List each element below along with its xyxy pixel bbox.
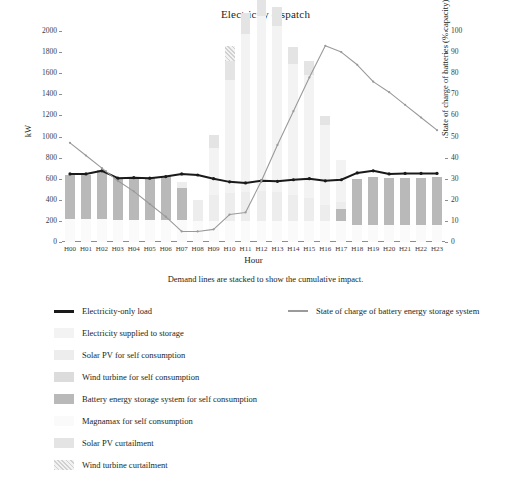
- legend-item[interactable]: Magnamax for self consumption: [54, 410, 193, 432]
- chart-subtitle: Demand lines are stacked to show the cum…: [0, 274, 531, 284]
- y-tick-mark-right: [445, 52, 448, 53]
- series-point: [388, 172, 391, 175]
- series-point: [356, 64, 358, 66]
- series-point: [84, 172, 87, 175]
- x-tick-label: H20: [383, 246, 395, 253]
- series-point: [276, 180, 279, 183]
- series-point: [69, 142, 71, 144]
- series-point: [68, 172, 71, 175]
- series-point: [149, 203, 151, 205]
- x-tick-label: H15: [303, 246, 315, 253]
- y-tick-mark-right: [445, 221, 448, 222]
- legend-label: Wind turbine curtailment: [82, 460, 168, 470]
- series-point: [101, 167, 103, 169]
- x-tick-label: H14: [287, 246, 299, 253]
- series-point: [388, 91, 390, 93]
- x-tick-label: H18: [351, 246, 363, 253]
- y-tick-mark-left: [59, 52, 62, 53]
- bar-segment: [257, 0, 267, 16]
- x-tick-label: H22: [415, 246, 427, 253]
- series-point: [420, 116, 422, 118]
- legend-swatch-icon: [54, 394, 74, 404]
- y-tick-mark-left: [59, 115, 62, 116]
- legend-item[interactable]: Solar PV curtailment: [54, 432, 154, 454]
- series-point: [276, 144, 278, 146]
- series-point: [117, 180, 119, 182]
- y-tick-mark-right: [445, 200, 448, 201]
- series-point: [244, 211, 246, 213]
- legend-item[interactable]: State of charge of battery energy storag…: [288, 300, 479, 322]
- x-tick-label: H16: [319, 246, 331, 253]
- legend-label: State of charge of battery energy storag…: [316, 306, 479, 316]
- series-line: [70, 171, 437, 183]
- x-tick-label: H01: [80, 246, 92, 253]
- legend-row: Solar PV for self consumption: [54, 344, 524, 366]
- legend-label: Electricity-only load: [82, 306, 152, 316]
- series-point: [85, 154, 87, 156]
- y-tick-label-right: 20: [451, 196, 459, 204]
- series-point: [404, 104, 406, 106]
- y-tick-mark-right: [445, 158, 448, 159]
- series-point: [324, 45, 326, 47]
- y-tick-label-left: 1600: [42, 69, 57, 77]
- legend-item[interactable]: Electricity supplied to storage: [54, 322, 184, 344]
- legend-row: Wind turbine curtailment: [54, 454, 524, 476]
- legend-row: Electricity-only loadState of charge of …: [54, 300, 524, 322]
- legend-label: Magnamax for self consumption: [82, 416, 193, 426]
- x-tick-label: H05: [144, 246, 156, 253]
- series-point: [340, 51, 342, 53]
- x-tick-label: H06: [160, 246, 172, 253]
- series-point: [133, 190, 135, 192]
- series-point: [181, 230, 183, 232]
- y-tick-label-left: 1800: [42, 48, 57, 56]
- legend-item[interactable]: Wind turbine for self consumption: [54, 366, 199, 388]
- y-axis-label-left: kW: [23, 125, 33, 137]
- x-tick-label: H19: [367, 246, 379, 253]
- series-point: [292, 178, 295, 181]
- legend-row: Wind turbine for self consumption: [54, 366, 524, 388]
- series-point: [324, 179, 327, 182]
- plot-area: 0200400600800100012001400160018002000 01…: [62, 31, 445, 242]
- y-tick-mark-right: [445, 115, 448, 116]
- legend-label: Solar PV curtailment: [82, 438, 154, 448]
- series-point: [372, 169, 375, 172]
- legend-swatch-icon: [54, 350, 74, 360]
- y-tick-mark-left: [59, 31, 62, 32]
- legend-item[interactable]: Solar PV for self consumption: [54, 344, 185, 366]
- x-tick-label: H04: [128, 246, 140, 253]
- y-tick-label-right: 100: [451, 27, 462, 35]
- y-tick-label-left: 1200: [42, 111, 57, 119]
- y-tick-mark-left: [59, 94, 62, 95]
- x-tick-label: H08: [192, 246, 204, 253]
- y-tick-mark-left: [59, 221, 62, 222]
- x-tick-label: H07: [176, 246, 188, 253]
- x-tick-label: H11: [240, 246, 252, 253]
- legend-swatch-icon: [54, 460, 74, 470]
- plot-inner: 0200400600800100012001400160018002000 01…: [62, 31, 445, 242]
- bar-segment: [272, 7, 282, 26]
- y-tick-mark-left: [59, 158, 62, 159]
- x-tick-label: H21: [399, 246, 411, 253]
- legend-label: Electricity supplied to storage: [82, 328, 184, 338]
- y-tick-mark-right: [445, 179, 448, 180]
- series-layer: [62, 31, 445, 242]
- series-point: [164, 175, 167, 178]
- y-tick-label-right: 30: [451, 175, 459, 183]
- series-point: [244, 181, 247, 184]
- y-tick-label-right: 80: [451, 69, 459, 77]
- legend-item[interactable]: Electricity-only load: [54, 300, 152, 322]
- x-tick-label: H23: [431, 246, 443, 253]
- series-point: [292, 110, 294, 112]
- legend-item[interactable]: Battery energy storage system for self c…: [54, 388, 257, 410]
- series-point: [197, 230, 199, 232]
- x-tick-label: H13: [271, 246, 283, 253]
- x-axis-label: Hour: [62, 255, 445, 265]
- y-tick-label-left: 1400: [42, 90, 57, 98]
- series-point: [419, 172, 422, 175]
- legend-item[interactable]: Wind turbine curtailment: [54, 454, 168, 476]
- y-tick-mark-right: [445, 137, 448, 138]
- series-point: [404, 172, 407, 175]
- series-point: [435, 172, 438, 175]
- y-tick-label-left: 600: [46, 175, 57, 183]
- y-tick-label-right: 90: [451, 48, 459, 56]
